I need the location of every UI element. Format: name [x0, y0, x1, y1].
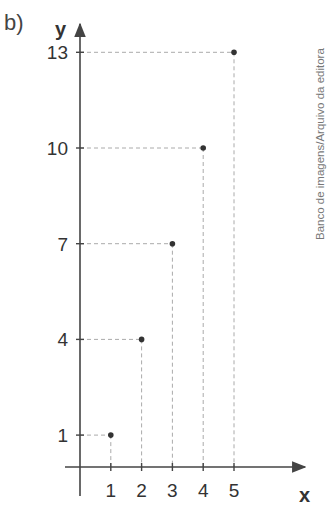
axis-ticks — [76, 52, 234, 471]
data-point — [108, 432, 114, 438]
y-axis-label: y — [55, 18, 67, 40]
scatter-chart: 123451471013 x y — [0, 0, 329, 506]
projection-lines — [80, 52, 234, 467]
y-tick-label: 7 — [57, 234, 68, 255]
data-point — [170, 241, 176, 247]
y-tick-label: 1 — [57, 425, 68, 446]
tick-labels: 123451471013 — [47, 42, 239, 501]
data-point — [231, 50, 237, 56]
x-tick-label: 2 — [136, 480, 147, 501]
y-tick-label: 13 — [47, 42, 68, 63]
x-tick-label: 4 — [198, 480, 209, 501]
y-tick-label: 4 — [57, 329, 68, 350]
x-tick-label: 3 — [167, 480, 178, 501]
x-tick-label: 5 — [229, 480, 240, 501]
y-tick-label: 10 — [47, 138, 68, 159]
data-point — [200, 145, 206, 151]
image-credit: Banco de imagens/Arquivo da editora — [314, 8, 324, 240]
data-point — [139, 337, 145, 343]
x-axis-label: x — [299, 484, 310, 506]
x-tick-label: 1 — [106, 480, 117, 501]
